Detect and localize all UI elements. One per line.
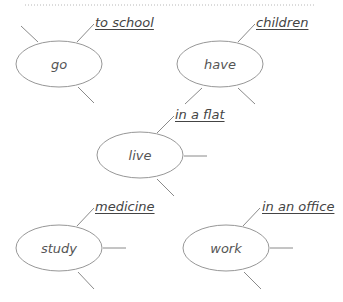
node-label-have: have	[204, 57, 236, 72]
node-label-work: work	[210, 241, 241, 256]
collocation-in-a-flat: in a flat	[175, 107, 225, 122]
collocation-medicine: medicine	[95, 199, 155, 214]
collocation-children: children	[256, 15, 308, 30]
node-label-live: live	[129, 148, 152, 163]
collocation-in-an-office: in an office	[262, 199, 334, 214]
node-live	[97, 116, 207, 196]
diagram-canvas	[0, 0, 343, 302]
node-label-go: go	[51, 57, 67, 72]
node-label-study: study	[41, 241, 77, 256]
collocation-to-school: to school	[95, 15, 154, 30]
